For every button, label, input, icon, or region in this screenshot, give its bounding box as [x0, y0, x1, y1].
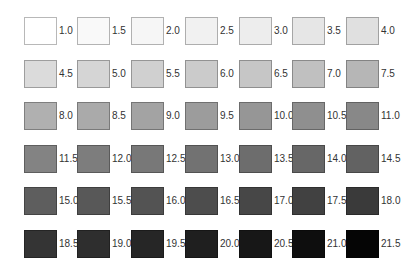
swatch-cell: 2.0: [131, 17, 185, 51]
swatch-cell: 4.0: [346, 17, 400, 51]
swatch-label: 18.5: [59, 238, 78, 250]
gray-swatch: [131, 145, 164, 173]
swatch-label: 6.0: [220, 68, 234, 80]
swatch-cell: 20.0: [185, 230, 239, 264]
gray-swatch: [131, 187, 164, 215]
gray-swatch: [131, 102, 164, 130]
swatch-label: 12.0: [112, 153, 131, 165]
gray-swatch: [346, 60, 379, 88]
swatch-cell: 9.5: [185, 102, 239, 136]
swatch-label: 20.0: [220, 238, 239, 250]
swatch-label: 20.5: [274, 238, 293, 250]
swatch-cell: 2.5: [185, 17, 239, 51]
swatch-label: 13.0: [220, 153, 239, 165]
swatch-cell: 17.0: [239, 187, 293, 221]
swatch-label: 13.5: [274, 153, 293, 165]
swatch-cell: 3.5: [292, 17, 346, 51]
swatch-label: 21.5: [381, 238, 400, 250]
gray-swatch: [24, 60, 57, 88]
swatch-label: 14.5: [381, 153, 400, 165]
swatch-label: 10.5: [327, 110, 346, 122]
swatch-label: 14.0: [327, 153, 346, 165]
gray-swatch: [24, 145, 57, 173]
swatch-cell: 11.5: [24, 145, 78, 179]
swatch-cell: 9.0: [131, 102, 185, 136]
gray-swatch: [346, 230, 379, 258]
swatch-cell: 12.0: [77, 145, 131, 179]
gray-swatch: [239, 17, 272, 45]
gray-swatch: [239, 230, 272, 258]
swatch-label: 2.0: [166, 25, 180, 37]
swatch-label: 7.0: [327, 68, 341, 80]
swatch-cell: 20.5: [239, 230, 293, 264]
gray-swatch: [346, 102, 379, 130]
swatch-cell: 18.5: [24, 230, 78, 264]
gray-swatch: [131, 17, 164, 45]
swatch-cell: 16.5: [185, 187, 239, 221]
gray-swatch: [292, 17, 325, 45]
gray-swatch: [24, 230, 57, 258]
swatch-cell: 21.5: [346, 230, 400, 264]
swatch-cell: 5.5: [131, 60, 185, 94]
gray-swatch: [77, 102, 110, 130]
swatch-cell: 14.0: [292, 145, 346, 179]
gray-swatch: [239, 60, 272, 88]
gray-swatch: [346, 187, 379, 215]
swatch-label: 9.0: [166, 110, 180, 122]
swatch-label: 3.0: [274, 25, 288, 37]
gray-swatch: [77, 60, 110, 88]
swatch-cell: 19.0: [77, 230, 131, 264]
gray-swatch: [292, 230, 325, 258]
swatch-label: 2.5: [220, 25, 234, 37]
swatch-label: 11.0: [381, 110, 400, 122]
swatch-label: 3.5: [327, 25, 341, 37]
swatch-cell: 6.5: [239, 60, 293, 94]
gray-swatch: [24, 102, 57, 130]
swatch-cell: 3.0: [239, 17, 293, 51]
swatch-cell: 10.0: [239, 102, 293, 136]
gray-swatch: [24, 17, 57, 45]
swatch-label: 12.5: [166, 153, 185, 165]
swatch-cell: 10.5: [292, 102, 346, 136]
gray-swatch: [346, 17, 379, 45]
swatch-cell: 12.5: [131, 145, 185, 179]
swatch-label: 17.5: [327, 195, 346, 207]
swatch-label: 21.0: [327, 238, 346, 250]
swatch-cell: 7.5: [346, 60, 400, 94]
gray-swatch: [292, 145, 325, 173]
swatch-label: 9.5: [220, 110, 234, 122]
gray-swatch: [24, 187, 57, 215]
swatch-label: 4.5: [59, 68, 73, 80]
swatch-cell: 4.5: [24, 60, 78, 94]
gray-swatch: [239, 145, 272, 173]
gray-swatch: [77, 17, 110, 45]
gray-swatch: [292, 102, 325, 130]
swatch-label: 4.0: [381, 25, 395, 37]
swatch-cell: 14.5: [346, 145, 400, 179]
swatch-label: 8.5: [112, 110, 126, 122]
swatch-label: 10.0: [274, 110, 293, 122]
swatch-label: 7.5: [381, 68, 395, 80]
swatch-cell: 8.5: [77, 102, 131, 136]
gray-swatch: [77, 187, 110, 215]
gray-swatch: [185, 187, 218, 215]
swatch-cell: 18.0: [346, 187, 400, 221]
gray-swatch: [185, 17, 218, 45]
swatch-cell: 21.0: [292, 230, 346, 264]
swatch-label: 5.5: [166, 68, 180, 80]
swatch-cell: 16.0: [131, 187, 185, 221]
swatch-label: 18.0: [381, 195, 400, 207]
swatch-label: 16.0: [166, 195, 185, 207]
swatch-cell: 8.0: [24, 102, 78, 136]
swatch-cell: 11.0: [346, 102, 400, 136]
gray-swatch: [185, 145, 218, 173]
swatch-label: 1.0: [59, 25, 73, 37]
swatch-cell: 1.5: [77, 17, 131, 51]
swatch-label: 1.5: [112, 25, 126, 37]
swatch-label: 15.0: [59, 195, 78, 207]
swatch-label: 6.5: [274, 68, 288, 80]
swatch-cell: 15.0: [24, 187, 78, 221]
swatch-cell: 1.0: [24, 17, 78, 51]
swatch-cell: 17.5: [292, 187, 346, 221]
swatch-label: 19.0: [112, 238, 131, 250]
